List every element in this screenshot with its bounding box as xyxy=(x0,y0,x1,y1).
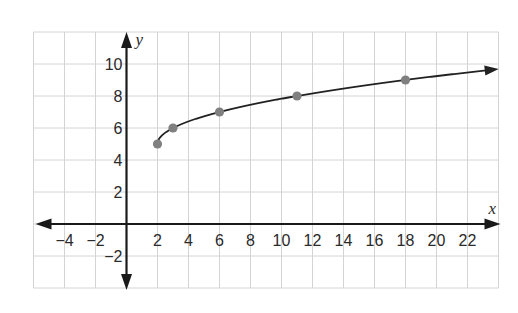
y-tick-label: 4 xyxy=(114,152,123,169)
tick-labels: xy−4−2246810121416182022−2246810 xyxy=(55,30,496,265)
x-tick-label: 20 xyxy=(428,232,446,249)
grid-lines xyxy=(34,32,499,288)
x-tick-label: 14 xyxy=(335,232,353,249)
data-point xyxy=(401,75,410,84)
x-tick-label: 18 xyxy=(397,232,415,249)
y-tick-label: 8 xyxy=(114,88,123,105)
x-tick-label: −4 xyxy=(55,232,73,249)
y-tick-label: 2 xyxy=(114,184,123,201)
x-tick-label: −2 xyxy=(86,232,104,249)
x-axis-label: x xyxy=(488,199,497,218)
x-tick-label: 22 xyxy=(459,232,477,249)
data-point xyxy=(153,139,162,148)
y-tick-label: 10 xyxy=(105,56,123,73)
x-tick-label: 2 xyxy=(153,232,162,249)
data-point xyxy=(215,107,224,116)
data-point xyxy=(168,123,177,132)
coordinate-plane: xy−4−2246810121416182022−2246810 xyxy=(0,0,518,313)
x-tick-label: 8 xyxy=(246,232,255,249)
x-tick-label: 16 xyxy=(366,232,384,249)
y-tick-label: −2 xyxy=(104,248,122,265)
x-tick-label: 6 xyxy=(215,232,224,249)
y-axis-up-arrow-icon xyxy=(121,32,132,48)
data-point xyxy=(292,91,301,100)
x-axis-left-arrow-icon xyxy=(36,219,52,230)
curve-path xyxy=(158,70,491,144)
x-tick-label: 4 xyxy=(184,232,193,249)
y-axis-label: y xyxy=(134,30,144,49)
x-tick-label: 10 xyxy=(273,232,291,249)
function-curve xyxy=(158,66,499,144)
y-tick-label: 6 xyxy=(114,120,123,137)
curve-arrow-icon xyxy=(484,66,498,76)
x-tick-label: 12 xyxy=(304,232,322,249)
